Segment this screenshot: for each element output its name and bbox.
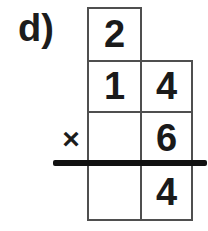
product-ones-cell: 4: [140, 163, 193, 221]
multiplier-tens-cell[interactable]: [87, 111, 142, 165]
product-tens-cell[interactable]: [87, 163, 142, 221]
multiplication-sign: ×: [55, 115, 87, 163]
multiplicand-tens-cell: 1: [87, 60, 142, 113]
multiplicand-ones-cell: 4: [140, 60, 193, 113]
multiplier-ones-cell: 6: [140, 111, 193, 165]
answer-line: [53, 160, 207, 166]
worksheet-multiplication-problem: d) 2 1 4 × 6 4: [0, 0, 208, 231]
carry-tens-cell: 2: [87, 7, 142, 62]
problem-label: d): [18, 8, 54, 48]
